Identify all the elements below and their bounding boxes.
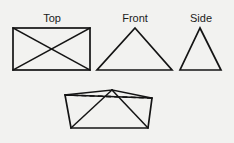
top-view-label: Top [43, 12, 61, 24]
pyramid-base-outline [65, 95, 152, 128]
side-view-group: Side [180, 12, 221, 70]
front-view-triangle [97, 28, 172, 70]
top-view-group: Top [13, 12, 90, 70]
front-view-group: Front [97, 12, 172, 70]
figure-canvas: Top Front Side [0, 0, 234, 143]
side-view-label: Side [190, 12, 212, 24]
front-view-label: Front [122, 12, 148, 24]
pyramid-edge-apex-to-back-left [65, 90, 112, 95]
pictorial-view-group [65, 90, 152, 128]
orthographic-projection-figure: Top Front Side [0, 0, 234, 143]
side-view-triangle [180, 28, 221, 70]
